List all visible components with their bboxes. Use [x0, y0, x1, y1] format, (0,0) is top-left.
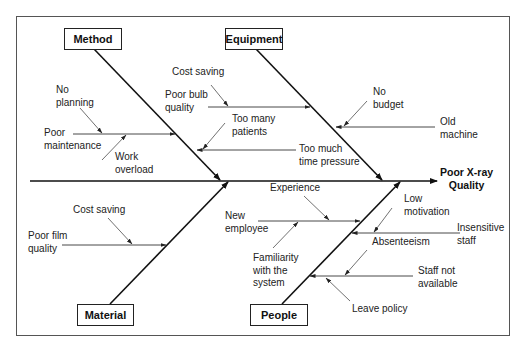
cause-poor-bulb-quality: Poor bulb quality — [165, 89, 208, 114]
category-people: People — [250, 304, 308, 326]
cause-too-much-time-pressure: Too much time pressure — [299, 143, 360, 168]
cause-absenteeism: Absenteeism — [372, 236, 430, 249]
cause-poor-film-quality: Poor film quality — [28, 230, 67, 255]
cause-work-overload: Work overload — [115, 151, 153, 176]
cause-no-planning: No planning — [56, 84, 94, 109]
category-material: Material — [77, 304, 134, 326]
cause-poor-maintenance: Poor maintenance — [44, 127, 101, 152]
cause-leave-policy: Leave policy — [352, 303, 408, 316]
cause-new-employee: New employee — [225, 210, 268, 235]
cause-insensitive-staff: Insensitive staff — [457, 222, 504, 247]
cause-old-machine: Old machine — [440, 116, 478, 141]
cause-low-motivation: Low motivation — [404, 193, 450, 218]
effect-label: Poor X-ray Quality — [440, 166, 493, 192]
cause-cost-saving-equipment: Cost saving — [172, 66, 224, 79]
category-equipment: Equipment — [225, 28, 283, 50]
category-method: Method — [64, 28, 122, 50]
cause-staff-not-available: Staff not available — [418, 265, 457, 290]
material-bone — [110, 182, 228, 304]
cause-too-many-patients: Too many patients — [232, 113, 275, 138]
cause-experience: Experience — [270, 182, 320, 195]
cause-no-budget: No budget — [373, 86, 404, 111]
cause-familiarity: Familiarity with the system — [253, 252, 299, 290]
cause-cost-saving-material: Cost saving — [73, 204, 125, 217]
